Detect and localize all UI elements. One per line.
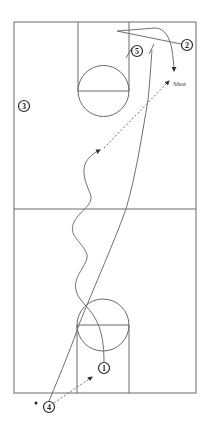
movements xyxy=(49,28,181,403)
player-3: 3 xyxy=(19,101,30,112)
player-3-label: 3 xyxy=(22,102,26,111)
player-2: 2 xyxy=(182,40,193,51)
play-diagram: Shot 1 2 3 4 5 xyxy=(0,0,207,440)
player-1-label: 1 xyxy=(102,364,106,373)
pass-4-to-1 xyxy=(54,377,92,403)
player-4-cut-path xyxy=(49,50,152,401)
top-key xyxy=(78,22,129,117)
shot-label: Shot xyxy=(173,80,186,88)
player-2-label: 2 xyxy=(185,41,189,50)
player-5-label: 5 xyxy=(135,47,139,56)
player-5: 5 xyxy=(132,46,143,57)
player-4: 4 xyxy=(35,402,55,413)
court xyxy=(14,22,196,393)
player-4-label: 4 xyxy=(47,403,51,412)
player-1: 1 xyxy=(99,363,110,374)
court-boundary xyxy=(14,22,196,393)
player-2-cut-path xyxy=(117,28,181,71)
ball-icon xyxy=(35,402,38,405)
